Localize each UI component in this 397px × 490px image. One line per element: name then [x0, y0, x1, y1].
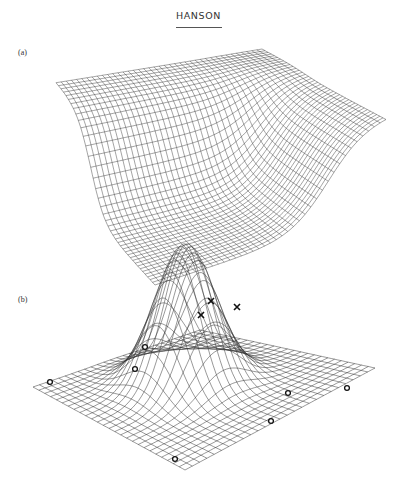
cross-marker: [198, 312, 204, 318]
circle-marker: [286, 391, 291, 396]
circle-marker: [269, 419, 274, 424]
figure-surfaces: [0, 0, 397, 490]
circle-marker: [48, 380, 53, 385]
figure-caption-clipped: [18, 485, 378, 490]
surface-plot-a: [56, 49, 386, 285]
surface-plot-b: [33, 244, 375, 470]
circle-marker: [345, 386, 350, 391]
circle-marker: [143, 345, 148, 350]
circle-marker: [133, 367, 138, 372]
cross-marker: [234, 304, 240, 310]
circle-marker: [173, 457, 178, 462]
